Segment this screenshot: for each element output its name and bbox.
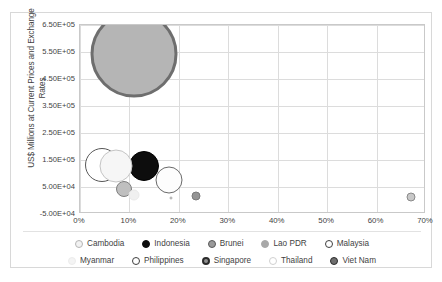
- legend-row-1: CambodiaIndonesiaBruneiLao PDRMalaysia: [23, 235, 421, 252]
- y-axis-tick-label: 3.50E+05: [31, 101, 75, 110]
- legend-item-label: Lao PDR: [273, 239, 306, 248]
- y-axis-tick-label: 4.50E+05: [31, 74, 75, 83]
- legend-item-philippines[interactable]: Philippines: [132, 256, 184, 265]
- x-axis-tick-label: 10%: [108, 216, 148, 225]
- legend-item-label: Brunei: [220, 239, 244, 248]
- x-axis-tick-label: 70%: [405, 216, 442, 225]
- legend-item-singapore[interactable]: Singapore: [202, 256, 251, 265]
- chart-legend: CambodiaIndonesiaBruneiLao PDRMalaysia M…: [23, 235, 421, 269]
- legend-item-label: Singapore: [214, 256, 251, 265]
- legend-item-malaysia[interactable]: Malaysia: [325, 239, 369, 248]
- legend-marker-icon: [261, 240, 269, 248]
- legend-item-label: Myanmar: [80, 256, 114, 265]
- legend-item-label: Cambodia: [87, 239, 124, 248]
- legend-item-indonesia[interactable]: Indonesia: [142, 239, 190, 248]
- bubble-viet-nam[interactable]: [407, 193, 416, 202]
- x-axis-tick-label: 50%: [306, 216, 346, 225]
- bubble-singapore[interactable]: [91, 24, 178, 98]
- legend-marker-icon: [330, 257, 338, 265]
- x-axis-tick-label: 40%: [257, 216, 297, 225]
- gridline-vertical: [278, 25, 279, 212]
- y-axis-tick-label: 2.50E+05: [31, 128, 75, 137]
- legend-marker-icon: [208, 240, 216, 248]
- legend-marker-icon: [142, 240, 150, 248]
- legend-item-label: Thailand: [281, 256, 312, 265]
- legend-marker-icon: [202, 257, 210, 265]
- bubble-lao-pdr[interactable]: [192, 192, 201, 201]
- legend-item-label: Indonesia: [154, 239, 190, 248]
- legend-item-myanmar[interactable]: Myanmar: [68, 256, 114, 265]
- gridline-vertical: [377, 25, 378, 212]
- gridline-vertical: [228, 25, 229, 212]
- y-axis-tick-label: 1.50E+05: [31, 155, 75, 164]
- chart-container: US$ Millions at Current Prices and Excha…: [10, 12, 432, 268]
- legend-item-brunei[interactable]: Brunei: [208, 239, 244, 248]
- x-axis-tick-label: 0%: [59, 216, 99, 225]
- x-axis-tick-label: 60%: [356, 216, 396, 225]
- gridline-vertical: [80, 25, 81, 212]
- gridline-horizontal: [80, 133, 424, 134]
- legend-marker-icon: [75, 240, 83, 248]
- bubble-cambodia[interactable]: [170, 197, 173, 200]
- x-axis-tick-label: 30%: [207, 216, 247, 225]
- legend-item-label: Malaysia: [337, 239, 369, 248]
- y-axis-tick-label: 5.00E+04: [31, 182, 75, 191]
- bubble-thailand[interactable]: [99, 149, 132, 182]
- legend-item-thailand[interactable]: Thailand: [269, 256, 312, 265]
- legend-marker-icon: [132, 257, 140, 265]
- legend-marker-icon: [325, 240, 333, 248]
- legend-row-2: MyanmarPhilippinesSingaporeThailandViet …: [23, 252, 421, 269]
- legend-item-cambodia[interactable]: Cambodia: [75, 239, 124, 248]
- legend-marker-icon: [68, 257, 76, 265]
- legend-item-viet-nam[interactable]: Viet Nam: [330, 256, 376, 265]
- y-axis-tick-label: 6.50E+05: [31, 20, 75, 29]
- y-axis-tick-label: 5.50E+05: [31, 47, 75, 56]
- legend-separator: [23, 231, 421, 232]
- plot-area: [79, 24, 425, 213]
- legend-item-label: Viet Nam: [342, 256, 376, 265]
- gridline-vertical: [327, 25, 328, 212]
- y-axis-tick-labels: 6.50E+055.50E+054.50E+053.50E+052.50E+05…: [29, 24, 75, 213]
- x-axis-tick-label: 20%: [158, 216, 198, 225]
- gridline-horizontal: [80, 106, 424, 107]
- legend-marker-icon: [269, 257, 277, 265]
- legend-item-lao-pdr[interactable]: Lao PDR: [261, 239, 306, 248]
- bubble-myanmar[interactable]: [129, 189, 140, 200]
- bubble-philippines[interactable]: [155, 166, 182, 193]
- legend-item-label: Philippines: [144, 256, 184, 265]
- x-axis-tick-labels: 0%10%20%30%40%50%60%70%: [79, 216, 425, 228]
